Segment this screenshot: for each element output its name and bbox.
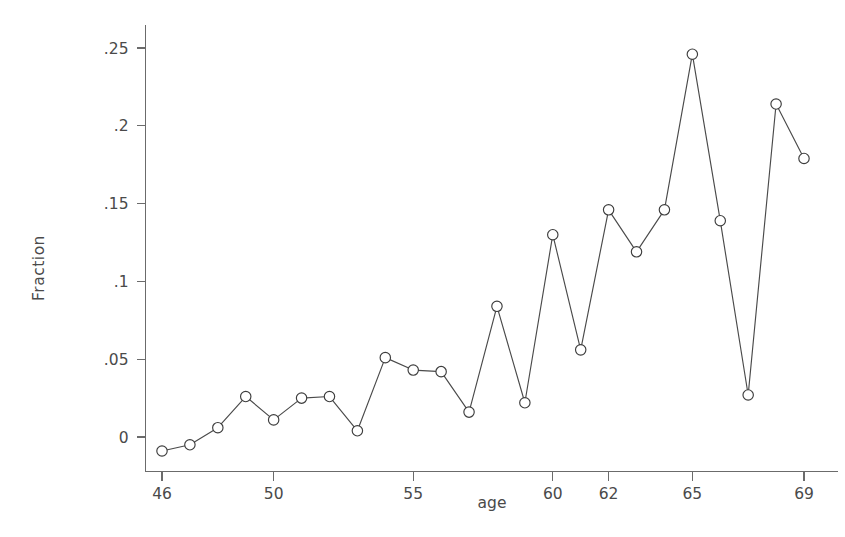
data-point-marker (687, 49, 697, 59)
x-tick-label: 65 (682, 485, 702, 503)
data-point-marker (659, 205, 669, 215)
data-point-marker (241, 391, 251, 401)
data-point-marker (771, 99, 781, 109)
fraction-series-line (162, 54, 804, 451)
data-point-marker (268, 415, 278, 425)
x-tick-label: 60 (543, 485, 563, 503)
x-tick-label: 69 (794, 485, 814, 503)
data-point-marker (492, 301, 502, 311)
data-point-marker (631, 247, 641, 257)
data-point-marker (743, 390, 753, 400)
data-point-marker (576, 345, 586, 355)
y-tick-label: .2 (114, 117, 129, 135)
data-point-marker (324, 391, 334, 401)
data-point-marker (799, 153, 809, 163)
data-point-marker (408, 365, 418, 375)
x-tick-label: 46 (152, 485, 172, 503)
data-point-marker (464, 407, 474, 417)
data-point-marker (520, 398, 530, 408)
data-point-marker (715, 216, 725, 226)
data-point-marker (436, 366, 446, 376)
y-tick-label: .25 (104, 40, 129, 58)
data-point-marker (185, 440, 195, 450)
fraction-series-markers (157, 49, 809, 456)
chart-container: 0.05.1.15.2.25 46505560626569 age Fracti… (0, 0, 845, 537)
x-tick-label: 55 (403, 485, 423, 503)
x-tick-label: 62 (599, 485, 619, 503)
data-point-marker (352, 426, 362, 436)
data-point-marker (603, 205, 613, 215)
data-point-marker (548, 230, 558, 240)
data-point-marker (296, 393, 306, 403)
y-axis-title: Fraction (30, 235, 48, 301)
y-tick-label: .05 (104, 351, 129, 369)
data-point-marker (380, 352, 390, 362)
y-tick-label: 0 (119, 429, 129, 447)
x-tick-label: 50 (264, 485, 284, 503)
y-tick-group: 0.05.1.15.2.25 (104, 40, 146, 447)
y-tick-label: .1 (114, 273, 129, 291)
data-point-marker (157, 446, 167, 456)
y-tick-label: .15 (104, 195, 129, 213)
data-point-marker (213, 422, 223, 432)
x-axis-title: age (478, 494, 507, 512)
line-chart: 0.05.1.15.2.25 46505560626569 age Fracti… (0, 0, 845, 537)
